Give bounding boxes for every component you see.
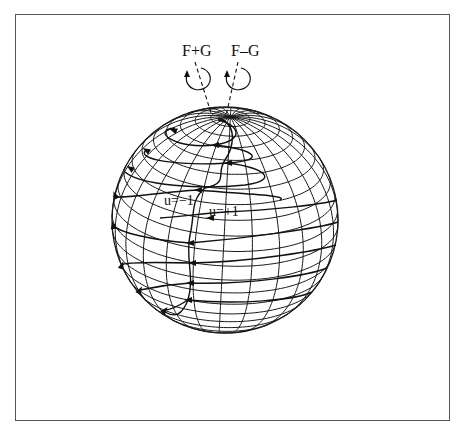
label-u-plus-1: u=+1 xyxy=(209,204,239,219)
grid-line xyxy=(219,117,230,333)
label-u-minus-1: u=−1 xyxy=(164,193,194,208)
label-f-plus-g: F+G xyxy=(182,42,212,59)
label-f-minus-g: F–G xyxy=(231,42,260,59)
arrowhead-icon xyxy=(224,70,230,77)
grid-line xyxy=(230,107,231,117)
sphere-diagram: F+G F–G u=−1 u=+1 xyxy=(0,0,465,432)
arrowhead-icon xyxy=(186,240,194,246)
arrowhead-icon xyxy=(211,142,219,148)
arrowhead-icon xyxy=(118,260,126,270)
arrowhead-icon xyxy=(194,187,202,193)
grid-line xyxy=(230,117,303,327)
sphere-wireframe xyxy=(112,107,338,333)
arrowhead-icon xyxy=(184,70,190,77)
rotation-arrow-icon xyxy=(226,68,250,90)
